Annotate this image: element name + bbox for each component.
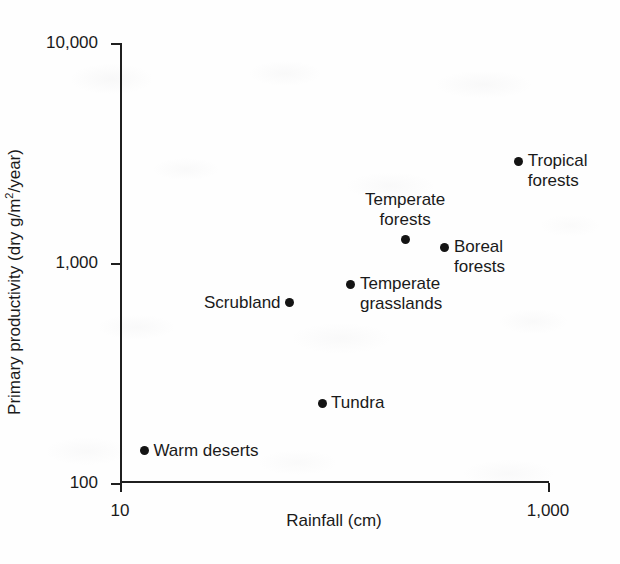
data-point-temperate-forests [401, 235, 410, 244]
data-point-boreal-forests [440, 243, 449, 252]
data-label-boreal-forests: Boreal forests [454, 237, 505, 277]
y-axis-title: Primary productivity (dry g/m2/year) [3, 149, 25, 415]
y-tick-1000: 1,000 [111, 263, 120, 265]
x-tick-label-10: 10 [111, 501, 130, 521]
data-label-scrubland: Scrubland [204, 293, 281, 313]
y-tick-label-100: 100 [70, 473, 98, 493]
y-tick-label-10000: 10,000 [46, 33, 98, 53]
y-axis-line [120, 43, 122, 484]
x-axis-line [120, 481, 549, 483]
data-label-tundra: Tundra [331, 393, 384, 413]
x-tick-label-1000: 1,000 [527, 501, 570, 521]
x-tick-10: 10 [120, 483, 122, 492]
data-label-tropical-forests: Tropical forests [528, 151, 588, 191]
data-label-temperate-forests: Temperate forests [365, 190, 445, 230]
y-tick-100: 100 [111, 483, 120, 485]
data-label-warm-deserts: Warm deserts [153, 441, 258, 461]
x-tick-1000: 1,000 [548, 483, 550, 492]
chart-figure: Primary productivity (dry g/m2/year) Rai… [0, 0, 620, 564]
plot-area: 10,000 1,000 100 10 1,000 Warm desertsTu… [120, 43, 548, 483]
data-point-tropical-forests [514, 157, 523, 166]
data-point-tundra [318, 399, 327, 408]
y-tick-10000: 10,000 [111, 43, 120, 45]
x-axis-title: Rainfall (cm) [286, 511, 381, 531]
data-point-temperate-grasslands [346, 280, 355, 289]
data-point-warm-deserts [140, 446, 149, 455]
y-tick-label-1000: 1,000 [55, 253, 98, 273]
data-label-temperate-grasslands: Temperate grasslands [360, 274, 442, 314]
data-point-scrubland [285, 298, 294, 307]
